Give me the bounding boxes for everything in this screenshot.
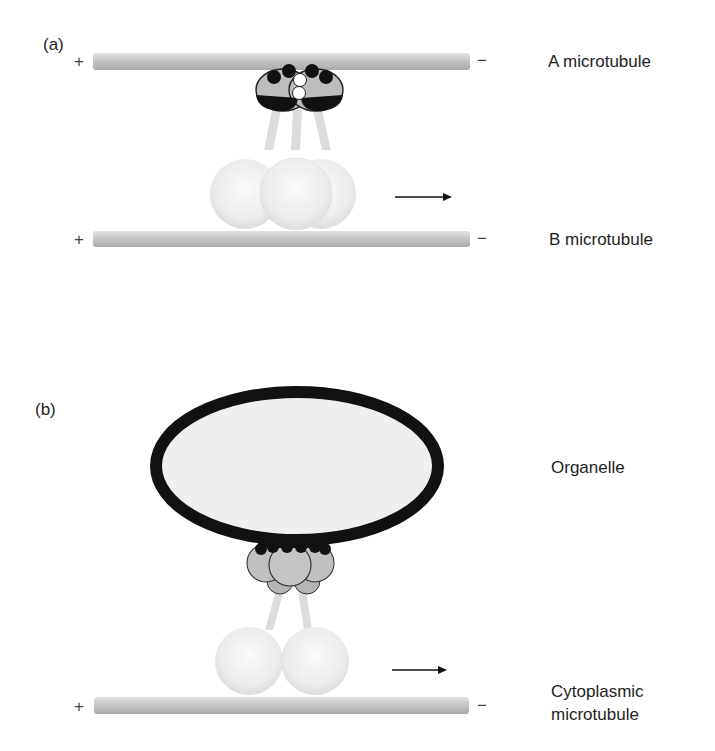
organelle-label: Organelle	[551, 458, 625, 478]
plus-end-a-top: +	[74, 53, 84, 71]
minus-end-b: −	[477, 697, 487, 715]
dynein-stalks-b	[265, 590, 312, 630]
cytoplasmic-label-line1: Cytoplasmic	[551, 682, 644, 702]
dynein-stalks-a	[264, 110, 331, 150]
a-microtubule-label: A microtubule	[548, 52, 651, 72]
cytoplasmic-label-line2: microtubule	[551, 705, 639, 725]
dynein-heads-b	[215, 627, 349, 695]
b-microtubule-label: B microtubule	[549, 230, 653, 250]
dynein-tail-complex-a	[256, 64, 343, 111]
cytoplasmic-microtubule	[94, 697, 469, 714]
plus-end-b: +	[74, 698, 84, 716]
direction-arrow-a	[395, 193, 452, 201]
panel-a	[93, 53, 470, 247]
a-microtubule	[93, 53, 470, 70]
dynein-diagram	[0, 0, 715, 751]
organelle	[156, 392, 438, 540]
dynein-heads-a	[210, 158, 356, 230]
minus-end-a-top: −	[477, 52, 487, 70]
b-microtubule	[93, 231, 470, 247]
plus-end-a-bottom: +	[74, 231, 84, 249]
dynein-tail-complex-b	[247, 540, 334, 594]
minus-end-a-bottom: −	[477, 230, 487, 248]
panel-b	[94, 392, 469, 714]
direction-arrow-b	[392, 666, 447, 674]
panel-label-b: (b)	[35, 400, 56, 420]
panel-label-a: (a)	[43, 35, 64, 55]
